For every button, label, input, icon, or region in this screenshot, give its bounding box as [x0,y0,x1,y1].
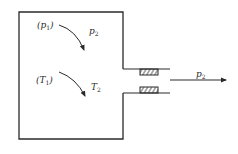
label-outlet-p2: p2 [196,70,206,80]
temperature-change-arrow [59,72,85,96]
valve-upper [140,69,158,75]
label-T2: T2 [91,83,101,93]
label-p1: (p1) [37,21,54,31]
valve-lower [140,87,158,93]
label-T1: (T1) [36,76,53,86]
pressure-change-arrow [59,25,84,50]
label-p2-tank: p2 [89,27,99,37]
